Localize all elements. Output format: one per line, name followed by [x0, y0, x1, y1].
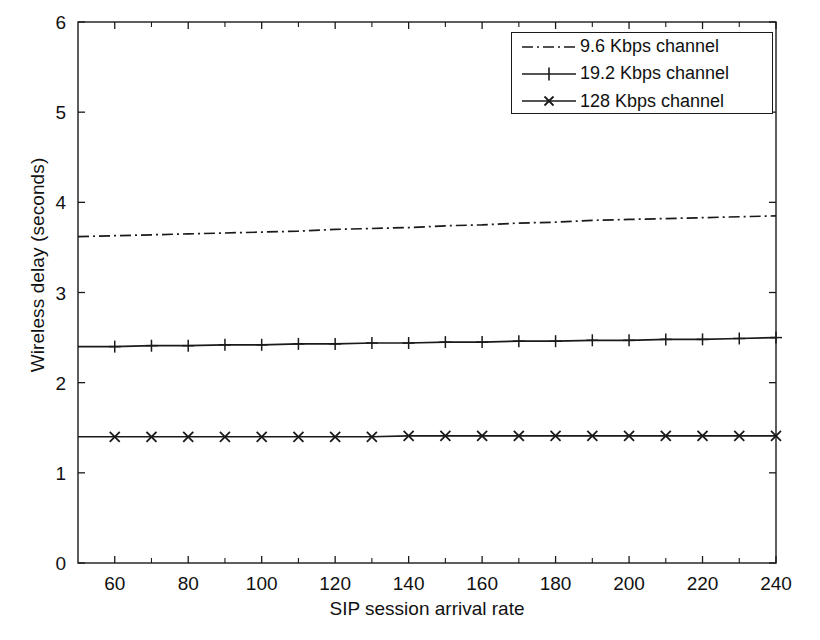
legend-item-1: 19.2 Kbps channel: [512, 60, 772, 87]
series-marker-1: [660, 333, 672, 345]
x-axis-title: SIP session arrival rate: [78, 598, 776, 620]
legend-label-0: 9.6 Kbps channel: [580, 36, 719, 57]
x-tick-label: 220: [687, 573, 719, 594]
legend-item-2: 128 Kbps channel: [512, 88, 772, 115]
series-marker-1: [439, 336, 451, 348]
legend-label-1: 19.2 Kbps channel: [580, 63, 729, 84]
y-axis-title-wrap: Wireless delay (seconds): [18, 0, 58, 585]
x-tick-label: 140: [393, 573, 425, 594]
x-tick-label: 60: [104, 573, 125, 594]
series-marker-1: [292, 338, 304, 350]
legend-item-0: 9.6 Kbps channel: [512, 33, 772, 60]
x-tick-label: 160: [466, 573, 498, 594]
series-marker-1: [403, 337, 415, 349]
series-marker-1: [329, 338, 341, 350]
legend: 9.6 Kbps channel 19.2 Kbps channel 128 K…: [511, 32, 773, 114]
x-tick-label: 200: [613, 573, 645, 594]
series-marker-1: [733, 332, 745, 344]
legend-sample-dash-dot-icon: [520, 37, 578, 57]
series-line-0: [78, 216, 776, 237]
y-axis-title: Wireless delay (seconds): [27, 158, 49, 373]
series-marker-1: [476, 336, 488, 348]
series-marker-1: [770, 332, 782, 344]
x-tick-label: 120: [319, 573, 351, 594]
legend-label-2: 128 Kbps channel: [580, 91, 724, 112]
series-marker-1: [513, 335, 525, 347]
series-line-2: [78, 436, 776, 437]
legend-sample-solid-cross-icon: [520, 91, 578, 111]
series-marker-1: [366, 337, 378, 349]
legend-sample-solid-plus-icon: [520, 64, 578, 84]
x-tick-label: 80: [178, 573, 199, 594]
series-marker-1: [697, 333, 709, 345]
series-marker-1: [145, 340, 157, 352]
series-marker-1: [256, 339, 268, 351]
figure: 60801001201401601802002202400123456 Wire…: [0, 0, 820, 640]
x-tick-label: 100: [246, 573, 278, 594]
series-marker-1: [550, 335, 562, 347]
series-marker-1: [586, 334, 598, 346]
series-marker-1: [623, 334, 635, 346]
series-marker-1: [182, 340, 194, 352]
series-marker-1: [219, 339, 231, 351]
x-tick-label: 240: [760, 573, 792, 594]
x-tick-label: 180: [540, 573, 572, 594]
series-marker-1: [109, 341, 121, 353]
